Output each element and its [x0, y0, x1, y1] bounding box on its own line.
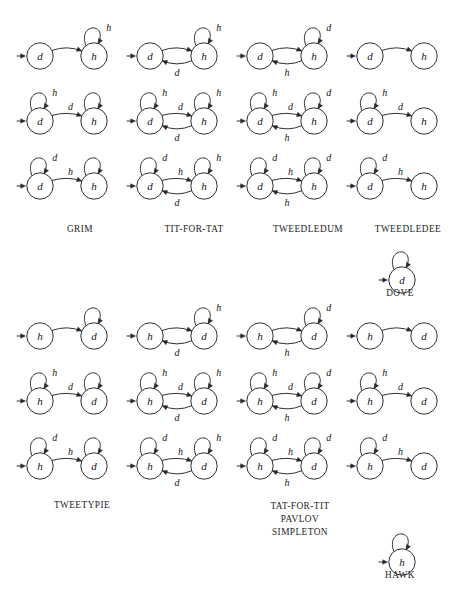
svg-text:d: d [288, 381, 294, 392]
fsm-hawk: h [368, 522, 430, 580]
svg-text:d: d [37, 180, 43, 192]
svg-text:d: d [175, 67, 181, 78]
fsm-bottom-r3-c4: hdhd [342, 426, 450, 488]
fsm-dove: d [368, 240, 430, 298]
fsm-top-r1-c2: dhdh [122, 16, 234, 78]
svg-text:d: d [382, 152, 388, 163]
svg-text:d: d [37, 50, 43, 62]
svg-text:d: d [399, 274, 405, 286]
fsm-top-r1-c3: hddh [232, 16, 344, 78]
svg-text:h: h [421, 180, 427, 192]
svg-text:h: h [216, 302, 221, 313]
fsm-bottom-r2-c2: ddhhhd [122, 361, 234, 423]
svg-text:h: h [147, 395, 153, 407]
svg-text:h: h [37, 395, 43, 407]
svg-text:d: d [257, 50, 263, 62]
figure-root: GRIM TIT-FOR-TAT TWEEDLEDUM TWEEDLEDEE D… [0, 0, 450, 593]
svg-text:d: d [147, 180, 153, 192]
fsm-top-r2-c4: dhdh [342, 81, 450, 143]
svg-text:d: d [52, 152, 58, 163]
fsm-top-r2-c3: dhhddh [232, 81, 344, 143]
svg-text:d: d [175, 347, 181, 358]
svg-text:h: h [106, 22, 111, 33]
svg-text:d: d [91, 330, 97, 342]
svg-text:d: d [421, 395, 427, 407]
svg-text:h: h [216, 22, 221, 33]
svg-text:h: h [37, 330, 43, 342]
svg-text:h: h [382, 87, 387, 98]
svg-text:h: h [398, 166, 403, 177]
svg-text:h: h [91, 115, 97, 127]
svg-text:d: d [201, 460, 207, 472]
svg-text:d: d [311, 330, 317, 342]
svg-text:h: h [216, 152, 221, 163]
fsm-bottom-r1-c4: hd [342, 296, 450, 358]
svg-text:h: h [399, 556, 405, 568]
svg-text:h: h [162, 87, 167, 98]
svg-text:d: d [175, 197, 181, 208]
svg-text:d: d [162, 152, 168, 163]
svg-text:d: d [68, 381, 74, 392]
svg-text:h: h [288, 166, 293, 177]
svg-text:d: d [326, 22, 332, 33]
svg-text:d: d [288, 101, 294, 112]
svg-text:d: d [382, 432, 388, 443]
svg-text:h: h [201, 50, 207, 62]
svg-text:h: h [285, 197, 290, 208]
caption-tweedledum: TWEEDLEDUM [258, 224, 358, 234]
fsm-top-r1-c4: dh [342, 16, 450, 78]
svg-text:d: d [257, 115, 263, 127]
svg-text:h: h [285, 412, 290, 423]
svg-text:d: d [175, 477, 181, 488]
svg-text:d: d [311, 460, 317, 472]
svg-text:d: d [367, 50, 373, 62]
svg-text:d: d [367, 180, 373, 192]
svg-text:h: h [216, 432, 221, 443]
svg-text:h: h [52, 87, 57, 98]
svg-text:h: h [216, 367, 221, 378]
svg-text:h: h [311, 50, 317, 62]
svg-text:d: d [91, 460, 97, 472]
fsm-top-r2-c2: ddhhdh [122, 81, 234, 143]
fsm-bottom-r2-c3: dhhdhd [232, 361, 344, 423]
svg-text:h: h [257, 395, 263, 407]
svg-text:h: h [257, 460, 263, 472]
svg-text:d: d [147, 50, 153, 62]
svg-text:h: h [285, 477, 290, 488]
fsm-bottom-r3-c1: hdhd [12, 426, 124, 488]
svg-text:h: h [201, 180, 207, 192]
svg-text:d: d [162, 432, 168, 443]
svg-text:d: d [52, 432, 58, 443]
svg-text:d: d [326, 87, 332, 98]
svg-text:h: h [216, 87, 221, 98]
svg-text:h: h [257, 330, 263, 342]
svg-text:d: d [272, 432, 278, 443]
fsm-bottom-r3-c3: hhddhd [232, 426, 344, 488]
fsm-top-r2-c1: dhdh [12, 81, 124, 143]
svg-text:d: d [326, 152, 332, 163]
svg-text:h: h [421, 115, 427, 127]
svg-text:h: h [162, 367, 167, 378]
svg-text:d: d [175, 132, 181, 143]
svg-text:h: h [367, 395, 373, 407]
svg-text:h: h [91, 50, 97, 62]
caption-tweetypie: TWEETYPIE [36, 500, 128, 510]
fsm-bottom-r2-c1: dhhd [12, 361, 124, 423]
svg-text:d: d [272, 152, 278, 163]
svg-text:d: d [201, 395, 207, 407]
svg-text:h: h [147, 460, 153, 472]
fsm-top-r3-c2: hddhdh [122, 146, 234, 208]
fsm-top-r1-c1: hdh [12, 16, 124, 78]
svg-text:d: d [398, 381, 404, 392]
fsm-bottom-r1-c1: hd [12, 296, 124, 358]
svg-text:h: h [367, 460, 373, 472]
caption-pavlov: PAVLOV [248, 513, 352, 527]
svg-text:d: d [37, 115, 43, 127]
fsm-top-r3-c3: hhdddh [232, 146, 344, 208]
svg-text:d: d [311, 395, 317, 407]
svg-text:d: d [421, 460, 427, 472]
svg-text:d: d [326, 367, 332, 378]
fsm-bottom-r3-c2: hddhhd [122, 426, 234, 488]
svg-text:h: h [398, 446, 403, 457]
svg-text:d: d [178, 381, 184, 392]
